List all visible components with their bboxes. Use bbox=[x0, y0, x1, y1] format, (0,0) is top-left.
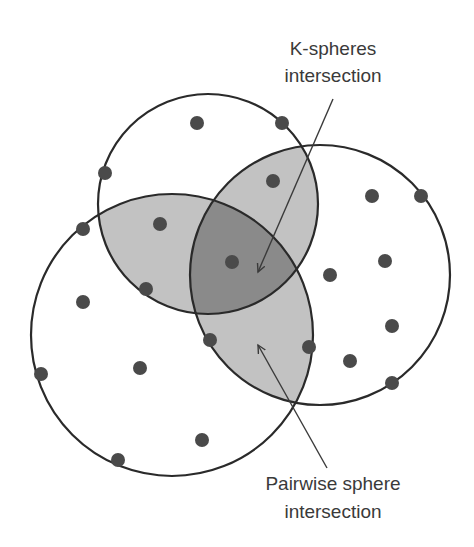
data-point bbox=[385, 319, 399, 333]
data-point bbox=[153, 217, 167, 231]
data-point bbox=[302, 340, 316, 354]
data-point bbox=[203, 333, 217, 347]
pairwise-label-line2: intersection bbox=[284, 501, 381, 522]
data-point bbox=[378, 254, 392, 268]
data-point bbox=[365, 189, 379, 203]
data-point bbox=[111, 453, 125, 467]
data-point bbox=[275, 116, 289, 130]
data-point bbox=[266, 174, 280, 188]
pairwise-intersection-regions bbox=[31, 145, 450, 476]
data-point bbox=[34, 367, 48, 381]
sphere-intersection-diagram: K-spheres intersection Pairwise sphere i… bbox=[0, 0, 474, 547]
data-point bbox=[98, 166, 112, 180]
data-point bbox=[343, 354, 357, 368]
data-point bbox=[195, 433, 209, 447]
data-point bbox=[76, 222, 90, 236]
data-point bbox=[323, 268, 337, 282]
data-point bbox=[385, 376, 399, 390]
k-spheres-label-line1: K-spheres bbox=[290, 38, 377, 59]
data-point bbox=[414, 189, 428, 203]
pairwise-label-line1: Pairwise sphere bbox=[265, 473, 400, 494]
data-point bbox=[133, 361, 147, 375]
data-point bbox=[139, 282, 153, 296]
data-point bbox=[190, 116, 204, 130]
data-point bbox=[76, 295, 90, 309]
data-point bbox=[225, 255, 239, 269]
k-spheres-label-line2: intersection bbox=[284, 65, 381, 86]
